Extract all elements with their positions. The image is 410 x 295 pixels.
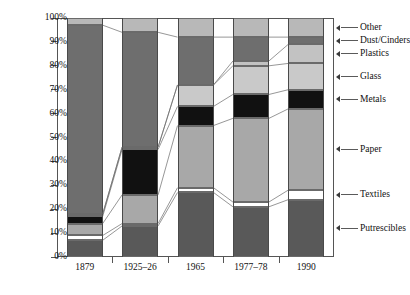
legend-label-other: Other [360, 22, 382, 32]
segment-paper [67, 224, 103, 236]
legend-leader-line [341, 40, 358, 41]
legend-leader-line [341, 76, 358, 77]
segment-textiles [122, 224, 158, 226]
segment-glass [122, 147, 158, 149]
legend-leader-line [341, 27, 358, 28]
segment-metals [288, 90, 324, 109]
legend-arrow-icon [336, 38, 340, 44]
segment-metals [122, 149, 158, 194]
y-axis-tick-label: 10% [21, 228, 67, 238]
legend-arrow-icon [336, 192, 340, 198]
segment-glass [178, 85, 214, 107]
legend-arrow-icon [336, 96, 340, 102]
y-axis-tick-label: 20% [21, 204, 67, 214]
segment-other [288, 18, 324, 37]
segment-textiles [233, 202, 269, 207]
segment-plastics [233, 61, 269, 66]
y-axis-tick-label: 100% [21, 13, 67, 23]
segment-putrescibles [233, 207, 269, 257]
y-axis-tick-label: 0% [21, 252, 67, 262]
legend-arrow-icon [336, 25, 340, 31]
segment-dust-cinders [288, 37, 324, 44]
legend-label-metals: Metals [360, 94, 386, 104]
segment-dust-cinders [233, 37, 269, 61]
legend-arrow-icon [336, 74, 340, 80]
segment-glass [67, 214, 103, 216]
bar-1879 [67, 18, 103, 257]
legend-leader-line [341, 149, 358, 150]
y-axis-tick-label: 80% [21, 61, 67, 71]
legend-leader-line [341, 194, 358, 195]
segment-paper [288, 109, 324, 190]
bar-1977-78 [233, 18, 269, 257]
segment-textiles [288, 190, 324, 200]
bar-1990 [288, 18, 324, 257]
y-axis-tick-label: 90% [21, 37, 67, 47]
legend-label-putrescibles: Putrescibles [360, 223, 406, 233]
segment-putrescibles [288, 200, 324, 257]
legend-label-dust-cinders: Dust/Cinders [360, 35, 410, 45]
segment-dust-cinders [178, 37, 214, 85]
segment-putrescibles [178, 192, 214, 257]
legend-arrow-icon [336, 51, 340, 57]
segment-other [67, 18, 103, 25]
segment-other [122, 18, 158, 32]
segment-metals [67, 216, 103, 223]
segment-dust-cinders [122, 32, 158, 147]
legend-label-glass: Glass [360, 71, 381, 81]
bar-1965 [178, 18, 214, 257]
segment-plastics [288, 44, 324, 63]
segment-textiles [178, 188, 214, 193]
legend-leader-line [341, 99, 358, 100]
legend-arrow-icon [336, 146, 340, 152]
legend-label-paper: Paper [360, 144, 382, 154]
segment-other [233, 18, 269, 37]
segment-paper [233, 118, 269, 202]
legend-arrow-icon [336, 225, 340, 231]
legend-label-plastics: Plastics [360, 48, 389, 58]
segment-glass [233, 66, 269, 95]
segment-metals [178, 106, 214, 125]
segment-putrescibles [67, 240, 103, 257]
segment-putrescibles [122, 226, 158, 257]
segment-metals [233, 94, 269, 118]
segment-dust-cinders [67, 25, 103, 214]
y-axis-tick-label: 60% [21, 109, 67, 119]
legend-label-textiles: Textiles [360, 189, 390, 199]
y-axis-tick-label: 70% [21, 85, 67, 95]
segment-textiles [67, 235, 103, 240]
y-axis-tick-label: 40% [21, 156, 67, 166]
segment-other [178, 18, 214, 37]
segment-paper [178, 126, 214, 188]
segment-paper [122, 195, 158, 224]
y-axis-tick-label: 30% [21, 180, 67, 190]
segment-glass [288, 63, 324, 89]
y-axis-tick-label: 50% [21, 133, 67, 143]
legend-leader-line [341, 228, 358, 229]
x-axis-tick-label: 1990 [271, 262, 341, 272]
bar-1925-26 [122, 18, 158, 257]
legend-leader-line [341, 53, 358, 54]
